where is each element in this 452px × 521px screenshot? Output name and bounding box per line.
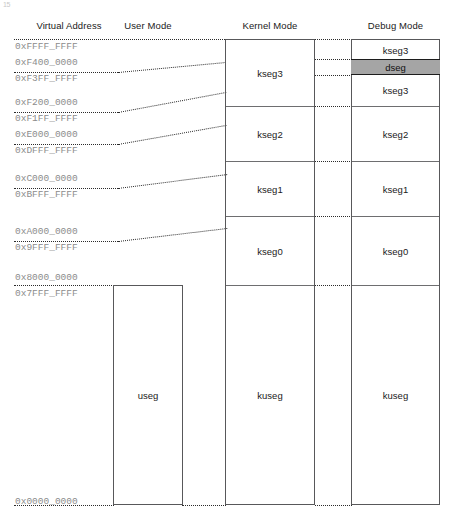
kernel-mode-column: kseg3 kseg2 kseg1 kseg0 kuseg (225, 39, 315, 505)
debug-mode-column: kseg3 kseg3 kseg2 kseg1 kseg0 kuseg (351, 39, 440, 505)
address-label: 0x7FFF_FFFF (15, 288, 78, 299)
connector-ffffffff (315, 39, 352, 40)
segment-kernel-kuseg: kuseg (226, 286, 314, 504)
leader-line-f3ffffff (14, 72, 118, 73)
column-header-virtual-address: Virtual Address (14, 20, 124, 31)
connector-f4000000 (315, 59, 352, 60)
connector-f3ffffff (315, 75, 352, 76)
segment-kernel-kseg1: kseg1 (226, 162, 314, 217)
leader-slope-9fffffff (118, 228, 227, 242)
connector-bottom-kernel (182, 505, 226, 506)
address-label: 0xDFFF_FFFF (15, 145, 78, 156)
segment-debug-kseg1: kseg1 (352, 162, 439, 217)
leader-slope-bfffffff (118, 174, 227, 189)
leader-line-7fffffff (14, 285, 114, 286)
leader-slope-dfffffff (118, 125, 227, 145)
segment-debug-kseg0: kseg0 (352, 217, 439, 286)
leader-line-dfffffff (14, 144, 118, 145)
address-label: 0x9FFF_FFFF (15, 242, 78, 253)
leader-line-bfffffff (14, 188, 118, 189)
leader-line-f1ffffff (14, 112, 118, 113)
segment-kernel-kseg2: kseg2 (226, 107, 314, 162)
user-mode-column: useg (113, 285, 183, 505)
address-label: 0xFFFF_FFFF (15, 41, 78, 52)
memory-map-diagram: 15 Virtual Address User Mode Kernel Mode… (0, 0, 452, 521)
connector-bottom-debug (315, 505, 352, 506)
address-label: 0xF200_0000 (15, 97, 78, 108)
address-label: 0xF400_0000 (15, 57, 78, 68)
address-label: 0xC000_0000 (15, 173, 78, 184)
connector-7fffffff (315, 285, 352, 286)
leader-slope-f1ffffff (118, 92, 226, 113)
address-label: 0xA000_0000 (15, 226, 78, 237)
leader-line-00000000 (14, 505, 114, 506)
connector-9fffffff (315, 216, 352, 217)
address-label: 0xE000_0000 (15, 129, 78, 140)
column-header-user-mode: User Mode (113, 20, 183, 31)
segment-debug-kseg2: kseg2 (352, 107, 439, 162)
scan-artifact: 15 (3, 1, 10, 8)
address-label: 0xBFFF_FFFF (15, 189, 78, 200)
segment-debug-kseg3-upper: kseg3 (352, 40, 439, 60)
segment-kernel-kseg3: kseg3 (226, 40, 314, 107)
column-header-debug-mode: Debug Mode (351, 20, 440, 31)
segment-debug-dseg: dseg (351, 59, 440, 75)
segment-kernel-kseg0: kseg0 (226, 217, 314, 286)
address-label: 0xF3FF_FFFF (15, 73, 78, 84)
connector-f1ffffff (315, 106, 352, 107)
leader-line-ffffffff (14, 39, 225, 40)
connector-bfffffff (315, 161, 352, 162)
segment-useg: useg (114, 286, 182, 504)
leader-slope-f3ffffff (118, 62, 226, 73)
address-label: 0xF1FF_FFFF (15, 113, 78, 124)
segment-debug-kseg3-lower: kseg3 (352, 76, 439, 105)
column-header-kernel-mode: Kernel Mode (225, 20, 315, 31)
address-label: 0x8000_0000 (15, 272, 78, 283)
leader-line-9fffffff (14, 241, 118, 242)
segment-debug-kuseg: kuseg (352, 286, 439, 504)
